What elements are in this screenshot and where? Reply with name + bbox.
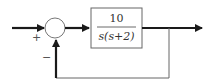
summing-junction bbox=[45, 18, 65, 38]
plus-sign: + bbox=[32, 31, 41, 44]
transfer-function-numerator: 10 bbox=[110, 12, 124, 25]
transfer-function-denominator: s(s+2) bbox=[98, 30, 134, 43]
block-diagram: + − 10 s(s+2) bbox=[0, 0, 208, 84]
minus-sign: − bbox=[42, 51, 51, 64]
